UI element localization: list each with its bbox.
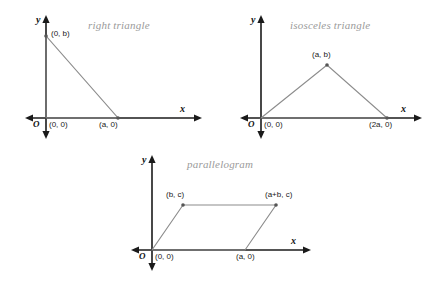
x-axis-label-isosceles-triangle: x [401,103,406,114]
x-axis-label-right-triangle: x [180,103,185,114]
y-axis-label-isosceles-triangle: y [251,14,255,25]
vertex-dot-bc [181,203,185,207]
vertex-label-2a0: (2a, 0) [369,120,392,129]
figure-parallelogram: parallelogram y x (b, c) (a+b, c) O (0, … [110,140,340,281]
x-axis-arrow-right [194,114,202,121]
vertex-label-00: (0, 0) [155,252,174,261]
vertex-label-ab: (a, b) [312,50,331,59]
origin-label-right-triangle: O [33,119,40,129]
origin-label-isosceles-triangle: O [248,119,255,129]
origin-label-parallelogram: O [139,251,146,261]
y-axis-label-parallelogram: y [142,154,146,165]
figure-right-triangle: right triangle y x (0, b) O (0, 0) (a, 0… [0,0,214,141]
vertex-dot-0b [44,34,48,38]
x-axis-arrow-left [240,114,248,121]
right-triangle-shape [46,36,118,118]
y-axis-arrow-down [257,131,264,139]
y-axis-arrow-up [148,155,155,163]
y-axis-arrow-up [257,15,264,23]
parallelogram-shape [152,205,276,250]
figure-isosceles-triangle: isosceles triangle y x (a, b) O (0, 0) (… [214,0,428,141]
y-axis-arrow-down [148,263,155,271]
x-axis-label-parallelogram: x [291,235,296,246]
y-axis-arrow-down [42,131,49,139]
y-axis-label-right-triangle: y [36,14,40,25]
x-axis-arrow-left [131,246,139,253]
vertex-label-a0: (a, 0) [236,252,255,261]
vertex-dot-ab [325,63,329,67]
vertex-label-0b: (0, b) [51,29,70,38]
vertex-label-apbc: (a+b, c) [265,190,292,199]
vertex-label-bc: (b, c) [166,190,184,199]
vertex-label-00: (0, 0) [49,120,68,129]
x-axis-arrow-right [414,114,422,121]
isosceles-triangle-plot [214,0,428,141]
x-axis-arrow-left [25,114,33,121]
x-axis-arrow-right [303,246,311,253]
vertex-dot-apbc [274,203,278,207]
y-axis-arrow-up [42,15,49,23]
vertex-label-00: (0, 0) [264,120,283,129]
vertex-label-a0: (a, 0) [99,120,118,129]
isosceles-triangle-shape [261,65,387,118]
